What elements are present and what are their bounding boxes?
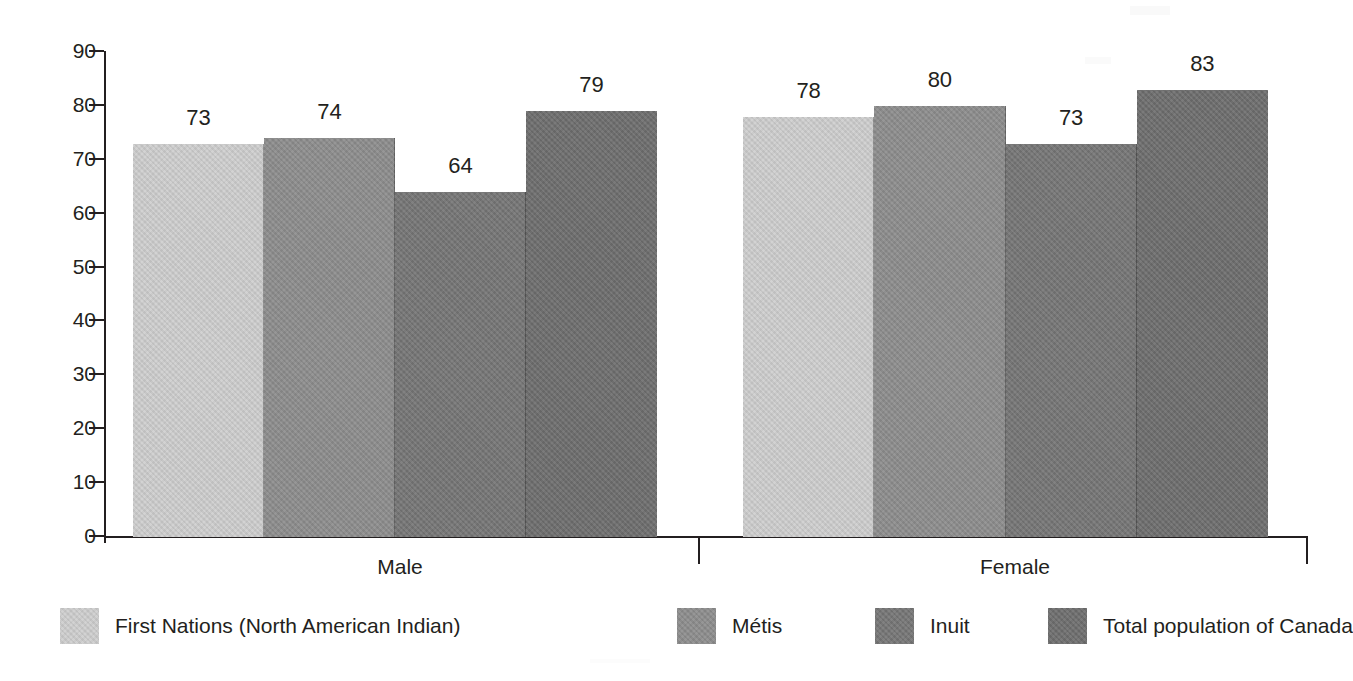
axis-end-tick: [1306, 536, 1308, 564]
y-axis-tick-label: 0: [36, 525, 96, 546]
legend-swatch: [875, 608, 914, 644]
y-axis-tick-label: 20: [36, 417, 96, 438]
bar-value-label: 64: [395, 155, 526, 177]
y-axis-tick-label: 50: [36, 256, 96, 277]
y-axis-tick-label: 10: [36, 471, 96, 492]
scan-artifact: [590, 659, 650, 663]
bar: [264, 138, 395, 537]
bar-texture: [133, 144, 264, 537]
chart-legend: First Nations (North American Indian)Mét…: [0, 606, 1345, 650]
legend-item[interactable]: Métis: [677, 606, 782, 646]
category-label-female: Female: [935, 556, 1095, 578]
y-axis-tick-label: 40: [36, 309, 96, 330]
legend-swatch: [1048, 608, 1087, 644]
bar-value-label: 73: [133, 107, 264, 129]
bar-texture: [1137, 90, 1268, 537]
legend-swatch-texture: [60, 608, 99, 644]
bar-texture: [264, 138, 395, 537]
bar-value-label: 74: [264, 101, 395, 123]
category-label-male: Male: [330, 556, 470, 578]
legend-swatch: [677, 608, 716, 644]
bar-value-label: 78: [743, 80, 874, 102]
bar-texture: [874, 106, 1005, 537]
y-axis-tick-label: 70: [36, 148, 96, 169]
legend-item[interactable]: Inuit: [875, 606, 970, 646]
bar-value-label: 79: [526, 74, 657, 96]
legend-label: Total population of Canada: [1103, 615, 1353, 637]
y-axis-tick-label: 80: [36, 94, 96, 115]
y-axis-tick-label: 30: [36, 363, 96, 384]
bar-texture: [395, 192, 526, 537]
legend-swatch-texture: [1048, 608, 1087, 644]
bar-value-label: 80: [874, 69, 1005, 91]
bar: [874, 106, 1005, 537]
bar-texture: [1006, 144, 1137, 537]
legend-swatch-texture: [677, 608, 716, 644]
y-axis-tick-label: 60: [36, 202, 96, 223]
bar: [1006, 144, 1137, 537]
legend-item[interactable]: First Nations (North American Indian): [60, 606, 460, 646]
y-axis-tick-label: 90: [36, 40, 96, 61]
legend-item[interactable]: Total population of Canada: [1048, 606, 1353, 646]
bar: [1137, 90, 1268, 537]
legend-swatch: [60, 608, 99, 644]
bar: [743, 117, 874, 537]
bar: [133, 144, 264, 537]
legend-label: First Nations (North American Indian): [115, 615, 460, 637]
legend-label: Métis: [732, 615, 782, 637]
bar: [526, 111, 657, 537]
bar-value-label: 83: [1137, 53, 1268, 75]
bar-value-label: 73: [1006, 107, 1137, 129]
legend-label: Inuit: [930, 615, 970, 637]
legend-swatch-texture: [875, 608, 914, 644]
scan-artifact: [1130, 6, 1170, 15]
bar-texture: [743, 117, 874, 537]
bar-texture: [526, 111, 657, 537]
bar: [395, 192, 526, 537]
category-separator-tick: [698, 536, 700, 564]
